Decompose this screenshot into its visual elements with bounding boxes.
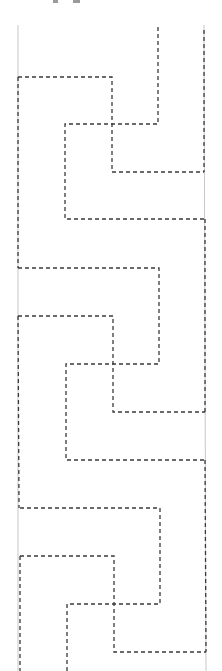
unit3-path-a (20, 508, 160, 671)
unit1-path-a (65, 27, 204, 219)
dashed-pattern-diagram (0, 0, 222, 671)
unit2-path-b (18, 316, 205, 412)
unit2-path-a (18, 268, 205, 460)
border-lines (18, 25, 206, 671)
dashed-lines (18, 27, 206, 671)
